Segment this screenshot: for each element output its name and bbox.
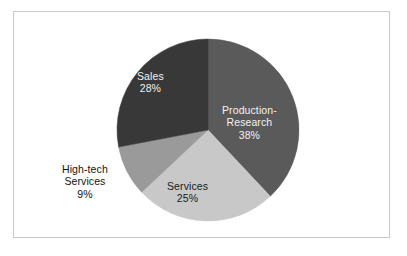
pie-value-production-research: 38% (222, 129, 277, 141)
pie-label-sales: Sales 28% (137, 70, 164, 95)
pie-chart-figure: Production- Research 38% Sales 28% Servi… (0, 0, 407, 256)
pie-label-high-tech-services-line2: Services (62, 175, 108, 187)
pie-label-production-research-line2: Research (222, 116, 277, 128)
pie-label-high-tech-services: High-tech Services 9% (62, 163, 108, 200)
pie-value-services: 25% (167, 192, 208, 204)
pie-label-production-research: Production- Research 38% (222, 104, 277, 141)
pie-label-sales-line1: Sales (137, 70, 164, 82)
pie-label-services-line1: Services (167, 180, 208, 192)
pie-value-sales: 28% (137, 82, 164, 94)
pie-svg (0, 0, 407, 256)
pie-label-high-tech-services-line1: High-tech (62, 163, 108, 175)
pie-chart-canvas (0, 0, 407, 256)
pie-label-services: Services 25% (167, 180, 208, 205)
pie-label-production-research-line1: Production- (222, 104, 277, 116)
pie-value-high-tech-services: 9% (62, 188, 108, 200)
